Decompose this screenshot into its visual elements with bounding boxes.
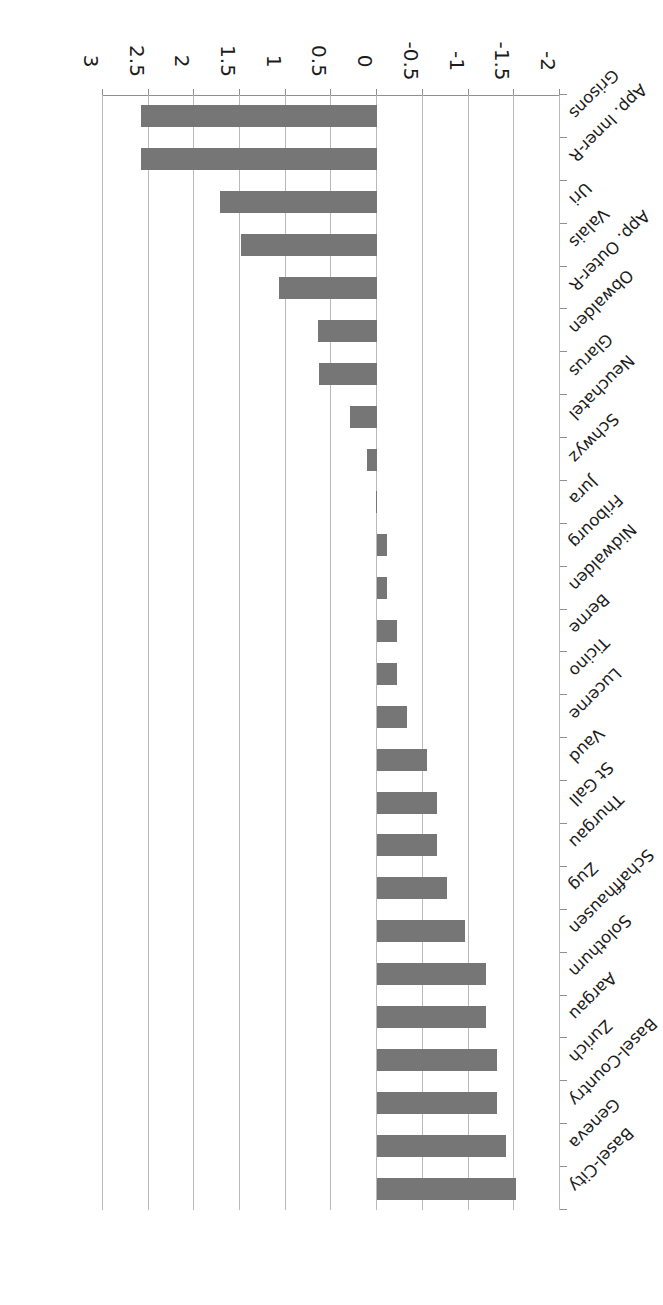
value-axis-tick-label: 1 bbox=[262, 55, 286, 68]
value-axis-tick bbox=[102, 89, 103, 95]
value-axis-line bbox=[103, 95, 560, 96]
category-axis-tick bbox=[560, 223, 567, 224]
category-axis-tick bbox=[560, 780, 567, 781]
value-axis-tick-label: -0.5 bbox=[399, 41, 423, 80]
plot-area bbox=[103, 95, 560, 1210]
category-axis-tick bbox=[560, 866, 567, 867]
bar bbox=[376, 491, 377, 513]
value-axis-tick bbox=[148, 89, 149, 95]
gridline bbox=[422, 95, 423, 1210]
value-axis-tick bbox=[376, 89, 377, 95]
value-axis-tick bbox=[193, 89, 194, 95]
bar bbox=[279, 277, 377, 299]
gridline bbox=[559, 95, 560, 1210]
gridline bbox=[148, 95, 149, 1210]
value-axis-tick bbox=[513, 89, 514, 95]
value-axis-tick bbox=[331, 89, 332, 95]
category-axis-tick bbox=[560, 1080, 567, 1081]
gridline bbox=[193, 95, 194, 1210]
bar bbox=[377, 663, 397, 685]
bar bbox=[220, 191, 377, 213]
category-axis-label: Zug bbox=[565, 859, 601, 895]
bar bbox=[377, 920, 465, 942]
bar bbox=[377, 1092, 497, 1114]
category-axis-tick bbox=[560, 566, 567, 567]
gridline bbox=[239, 95, 240, 1210]
bar bbox=[377, 577, 387, 599]
category-axis-tick bbox=[560, 394, 567, 395]
category-axis-tick bbox=[560, 1123, 567, 1124]
bar bbox=[241, 234, 377, 256]
bar bbox=[141, 148, 377, 170]
category-axis-tick bbox=[560, 823, 567, 824]
category-axis-tick bbox=[560, 694, 567, 695]
value-axis-tick-label: 2 bbox=[170, 55, 194, 68]
bar bbox=[377, 620, 397, 642]
category-axis-tick bbox=[560, 180, 567, 181]
category-axis-tick bbox=[560, 737, 567, 738]
category-axis-tick bbox=[560, 952, 567, 953]
gridline bbox=[468, 95, 469, 1210]
category-axis-tick bbox=[560, 351, 567, 352]
value-axis-tick-label: -1.5 bbox=[490, 41, 514, 80]
bar bbox=[377, 1006, 486, 1028]
bar-chart-figure: -2-1.5-1-0.500.511.522.53Basel-CityGenev… bbox=[0, 0, 663, 1305]
category-axis-label: Jura bbox=[565, 473, 601, 509]
bar bbox=[377, 749, 427, 771]
gridline bbox=[285, 95, 286, 1210]
category-axis-tick bbox=[560, 1209, 567, 1210]
bar bbox=[318, 320, 377, 342]
category-axis-tick bbox=[560, 94, 567, 95]
value-axis-tick-label: 0 bbox=[353, 55, 377, 68]
bar bbox=[377, 1049, 497, 1071]
category-axis-tick bbox=[560, 137, 567, 138]
category-axis-label: Aargau bbox=[565, 969, 620, 1024]
bar bbox=[377, 963, 486, 985]
bar bbox=[377, 1178, 516, 1200]
category-axis-tick bbox=[560, 308, 567, 309]
category-axis-tick bbox=[560, 1037, 567, 1038]
category-axis-tick bbox=[560, 523, 567, 524]
bar bbox=[350, 406, 377, 428]
rotated-figure-wrapper: -2-1.5-1-0.500.511.522.53Basel-CityGenev… bbox=[0, 0, 663, 1305]
category-axis-tick bbox=[560, 1166, 567, 1167]
bar bbox=[377, 792, 436, 814]
category-axis-tick bbox=[560, 266, 567, 267]
bar bbox=[367, 449, 377, 471]
value-axis-tick-label: 0.5 bbox=[308, 45, 332, 77]
category-axis-tick bbox=[560, 652, 567, 653]
category-axis-tick bbox=[560, 609, 567, 610]
category-axis-tick bbox=[560, 480, 567, 481]
value-axis-tick bbox=[422, 89, 423, 95]
category-axis-tick bbox=[560, 909, 567, 910]
bar bbox=[141, 105, 377, 127]
bar bbox=[377, 877, 446, 899]
value-axis-tick-label: 1.5 bbox=[216, 45, 240, 77]
value-axis-tick-label: -1 bbox=[445, 51, 469, 71]
gridline bbox=[376, 95, 377, 1210]
value-axis-tick-label: 2.5 bbox=[125, 45, 149, 77]
category-axis-label: Berne bbox=[565, 590, 613, 638]
gridline bbox=[331, 95, 332, 1210]
bar bbox=[319, 363, 377, 385]
value-axis-tick bbox=[285, 89, 286, 95]
value-axis-tick-label: 3 bbox=[79, 55, 103, 68]
gridline bbox=[102, 95, 103, 1210]
value-axis-tick bbox=[468, 89, 469, 95]
bar bbox=[377, 834, 436, 856]
category-axis-tick bbox=[560, 995, 567, 996]
category-axis-label: Uri bbox=[565, 179, 595, 209]
value-axis-tick-label: -2 bbox=[536, 51, 560, 71]
bar bbox=[377, 534, 387, 556]
gridline bbox=[513, 95, 514, 1210]
value-axis-tick bbox=[239, 89, 240, 95]
bar bbox=[377, 1135, 506, 1157]
bar bbox=[377, 706, 407, 728]
category-axis-tick bbox=[560, 437, 567, 438]
